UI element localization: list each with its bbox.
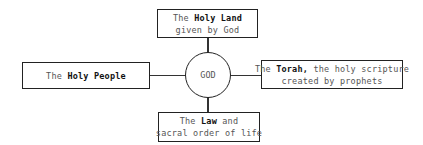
node-holy-land-line2: given by God xyxy=(176,24,240,36)
node-law: The Law and sacral order of life xyxy=(158,112,260,142)
bold-text: Holy People xyxy=(67,71,126,81)
connector-top xyxy=(207,37,209,53)
node-god-label: GOD xyxy=(200,70,215,80)
node-holy-people-line1: The Holy People xyxy=(46,70,126,82)
text: The xyxy=(173,13,194,23)
node-holy-land: The Holy Land given by God xyxy=(157,9,258,38)
text: The xyxy=(255,64,276,74)
text: The xyxy=(180,116,201,126)
text: the holy scripture xyxy=(308,64,409,74)
bold-text: Law xyxy=(201,116,217,126)
node-law-line1: The Law and xyxy=(180,115,239,127)
text: and xyxy=(217,116,238,126)
connector-bottom xyxy=(207,97,209,113)
node-law-line2: sacral order of life xyxy=(156,127,262,139)
node-god: GOD xyxy=(185,52,231,98)
connector-left xyxy=(149,75,186,77)
node-torah-line2: created by prophets xyxy=(281,75,382,87)
node-holy-land-line1: The Holy Land xyxy=(173,12,242,24)
connector-right xyxy=(230,75,262,77)
bold-text: Holy Land xyxy=(194,13,242,23)
node-torah-line1: The Torah, the holy scripture xyxy=(255,63,409,75)
text: The xyxy=(46,71,67,81)
bold-text: Torah, xyxy=(276,64,308,74)
node-holy-people: The Holy People xyxy=(22,62,150,89)
node-torah: The Torah, the holy scripture created by… xyxy=(261,60,403,89)
